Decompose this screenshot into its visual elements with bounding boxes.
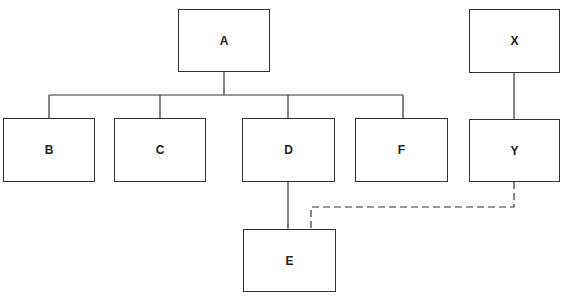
- node-f: F: [355, 118, 448, 182]
- node-e-label: E: [285, 254, 293, 268]
- node-e: E: [243, 229, 336, 292]
- node-c-label: C: [156, 143, 165, 157]
- node-x-label: X: [510, 34, 518, 48]
- node-d-label: D: [284, 143, 293, 157]
- node-f-label: F: [398, 143, 405, 157]
- node-a: A: [178, 9, 270, 72]
- node-y: Y: [469, 119, 560, 182]
- edge-y-e-dashed: [311, 182, 514, 229]
- node-y-label: Y: [510, 144, 518, 158]
- node-a-label: A: [220, 34, 229, 48]
- node-x: X: [469, 9, 560, 73]
- node-b: B: [3, 118, 95, 182]
- node-d: D: [242, 118, 335, 182]
- node-c: C: [114, 118, 206, 182]
- node-b-label: B: [45, 143, 54, 157]
